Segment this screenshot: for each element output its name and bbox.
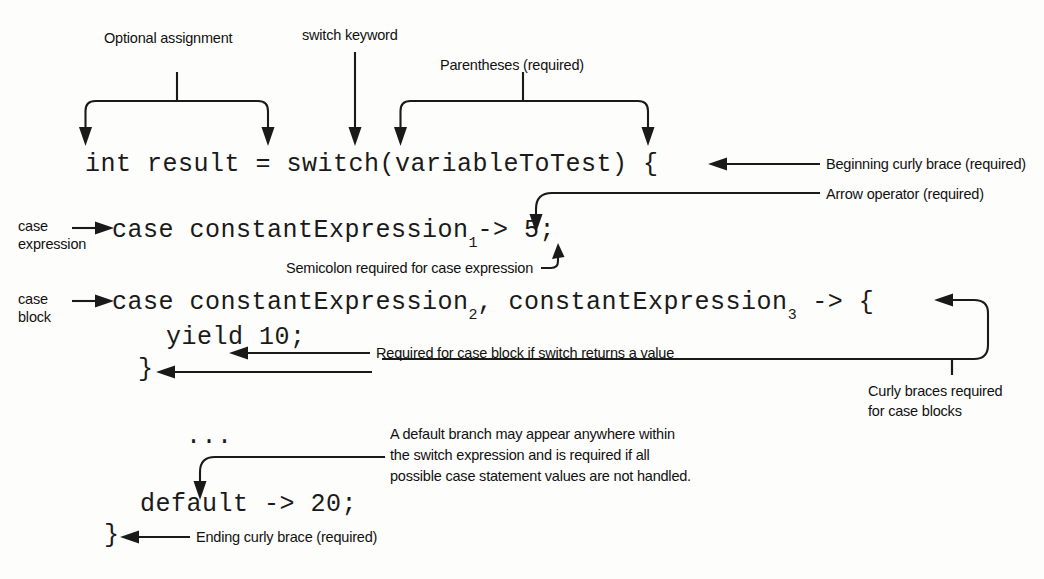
code-case-expression-head: case constantExpression xyxy=(112,216,469,245)
code-case-expression-tail: -> 5; xyxy=(478,216,556,245)
callout-required-for-case-block: Required for case block if switch return… xyxy=(376,343,674,363)
code-case-block-mid: , constantExpression xyxy=(478,288,788,317)
case-expression-arrow xyxy=(72,222,114,235)
callout-curly-braces-required-line2: for case blocks xyxy=(868,401,962,421)
figure-canvas: Optional assignment switch keyword Paren… xyxy=(0,0,1044,579)
code-line-case-block-close: } xyxy=(138,355,154,385)
callout-case-expression-line2: expression xyxy=(18,234,86,254)
case-block-arrow xyxy=(72,295,114,308)
callout-arrow-operator: Arrow operator (required) xyxy=(826,184,984,204)
code-line-switch-close: } xyxy=(104,521,120,551)
callout-default-branch-line2: the switch expression and is required if… xyxy=(390,445,650,465)
ending-curly-brace-arrow xyxy=(120,531,190,544)
callout-case-expression-line1: case xyxy=(18,216,48,236)
callout-switch-keyword: switch keyword xyxy=(302,25,398,45)
code-case-block-tail: -> { xyxy=(797,288,875,317)
code-line-case-block: case constantExpression2, constantExpres… xyxy=(112,288,874,327)
code-line-default: default -> 20; xyxy=(140,490,357,520)
callout-curly-braces-required-line1: Curly braces required xyxy=(868,381,1002,401)
optional-assignment-bracket xyxy=(79,72,275,146)
callout-semicolon-required: Semicolon required for case expression xyxy=(286,258,533,278)
code-case-block-head: case constantExpression xyxy=(112,288,469,317)
callout-case-block-line2: block xyxy=(18,307,51,327)
code-line-case-expression: case constantExpression1-> 5; xyxy=(112,216,555,255)
code-line-switch-header: int result = switch(variableToTest) { xyxy=(85,150,659,180)
beginning-curly-brace-arrow xyxy=(708,158,820,171)
callout-case-block-line1: case xyxy=(18,289,48,309)
code-line-yield: yield 10; xyxy=(166,323,306,353)
switch-keyword-arrow xyxy=(349,52,362,146)
callout-parentheses-required: Parentheses (required) xyxy=(440,55,584,75)
code-case-expression-subscript: 1 xyxy=(469,235,478,252)
callout-optional-assignment: Optional assignment xyxy=(104,28,232,48)
code-line-ellipsis: ... xyxy=(186,422,233,452)
code-case-block-subscript-a: 2 xyxy=(469,307,478,324)
parentheses-bracket xyxy=(394,72,655,146)
callout-beginning-curly-brace: Beginning curly brace (required) xyxy=(826,154,1026,174)
callout-default-branch-line1: A default branch may appear anywhere wit… xyxy=(390,424,675,444)
arrow-operator-leader xyxy=(530,193,821,233)
callout-default-branch-line3: possible case statement values are not h… xyxy=(390,466,691,486)
code-case-block-subscript-b: 3 xyxy=(788,307,797,324)
callout-ending-curly-brace: Ending curly brace (required) xyxy=(196,527,377,547)
